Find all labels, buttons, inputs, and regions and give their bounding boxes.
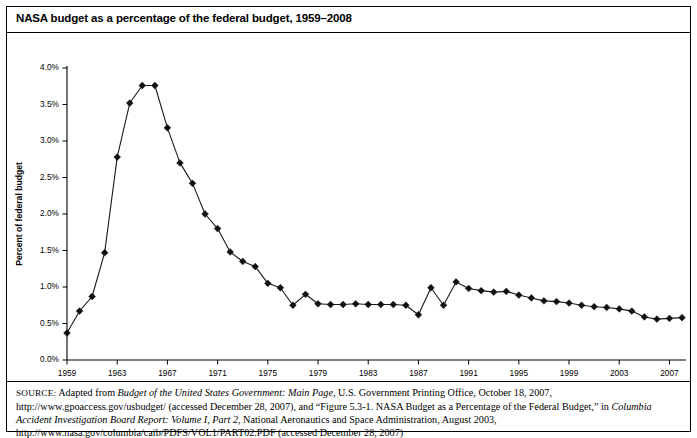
data-point-marker bbox=[503, 288, 510, 295]
data-point-marker bbox=[177, 160, 184, 167]
x-tick-label: 2003 bbox=[610, 368, 629, 378]
data-point-marker bbox=[641, 314, 648, 321]
x-tick-label: 1971 bbox=[208, 368, 227, 378]
data-point-marker bbox=[377, 301, 384, 308]
data-point-marker bbox=[114, 154, 121, 161]
data-point-marker bbox=[616, 306, 623, 313]
x-axis: 1959196319671971197519791983198719911995… bbox=[58, 360, 679, 378]
figure-title: NASA budget as a percentage of the feder… bbox=[16, 12, 352, 24]
series-line-nasa-budget bbox=[67, 86, 682, 333]
x-tick-label: 1995 bbox=[510, 368, 529, 378]
data-point-marker bbox=[327, 301, 334, 308]
data-point-marker bbox=[515, 292, 522, 299]
axis-lines bbox=[67, 66, 686, 360]
source-italic-1: Budget of the United States Government: … bbox=[118, 387, 333, 398]
data-point-marker bbox=[591, 303, 598, 310]
x-tick-label: 2007 bbox=[660, 368, 679, 378]
x-tick-label: 1991 bbox=[459, 368, 478, 378]
x-tick-label: 1983 bbox=[359, 368, 378, 378]
y-axis-title: Percent of federal budget bbox=[14, 162, 24, 266]
data-series bbox=[64, 82, 686, 336]
data-point-marker bbox=[490, 289, 497, 296]
x-tick-label: 1963 bbox=[108, 368, 127, 378]
data-point-marker bbox=[465, 285, 472, 292]
data-point-marker bbox=[578, 302, 585, 309]
data-point-marker bbox=[189, 180, 196, 187]
x-tick-label: 1959 bbox=[58, 368, 77, 378]
x-tick-label: 1975 bbox=[259, 368, 278, 378]
data-point-marker bbox=[478, 287, 485, 294]
data-point-marker bbox=[390, 301, 397, 308]
source-part-1: Adapted from bbox=[56, 387, 117, 398]
y-tick-label: 3.0% bbox=[40, 135, 60, 145]
x-tick-label: 1999 bbox=[560, 368, 579, 378]
data-point-marker bbox=[653, 316, 660, 323]
data-point-marker bbox=[566, 300, 573, 307]
data-point-marker bbox=[139, 82, 146, 89]
data-point-marker bbox=[553, 298, 560, 305]
line-chart: 0.0%0.5%1.0%1.5%2.0%2.5%3.0%3.5%4.0% 195… bbox=[0, 33, 697, 381]
y-tick-label: 0.0% bbox=[40, 354, 60, 364]
source-note: SOURCE: Adapted from Budget of the Unite… bbox=[16, 386, 682, 438]
data-point-marker bbox=[528, 295, 535, 302]
source-divider bbox=[7, 381, 690, 382]
source-label: SOURCE: bbox=[16, 388, 56, 398]
y-tick-label: 0.5% bbox=[40, 318, 60, 328]
y-tick-label: 1.0% bbox=[40, 281, 60, 291]
x-tick-label: 1979 bbox=[309, 368, 328, 378]
y-tick-label: 2.5% bbox=[40, 172, 60, 182]
data-point-marker bbox=[164, 124, 171, 131]
data-point-marker bbox=[453, 278, 460, 285]
y-tick-label: 3.5% bbox=[40, 99, 60, 109]
data-point-marker bbox=[101, 249, 108, 256]
x-tick-label: 1987 bbox=[409, 368, 428, 378]
chart-plot-area: 0.0%0.5%1.0%1.5%2.0%2.5%3.0%3.5%4.0% 195… bbox=[0, 33, 697, 381]
data-point-marker bbox=[679, 314, 686, 321]
data-point-marker bbox=[151, 82, 158, 89]
y-tick-label: 2.0% bbox=[40, 208, 60, 218]
data-point-marker bbox=[365, 301, 372, 308]
y-axis: 0.0%0.5%1.0%1.5%2.0%2.5%3.0%3.5%4.0% bbox=[40, 62, 67, 364]
data-point-marker bbox=[628, 308, 635, 315]
data-point-marker bbox=[541, 297, 548, 304]
y-tick-label: 1.5% bbox=[40, 245, 60, 255]
y-tick-label: 4.0% bbox=[40, 62, 60, 72]
data-point-marker bbox=[666, 315, 673, 322]
data-point-marker bbox=[603, 304, 610, 311]
data-point-marker bbox=[352, 300, 359, 307]
data-point-marker bbox=[340, 301, 347, 308]
y-axis-title-text: Percent of federal budget bbox=[14, 162, 24, 266]
data-point-marker bbox=[64, 330, 71, 337]
x-tick-label: 1967 bbox=[158, 368, 177, 378]
figure-container: NASA budget as a percentage of the feder… bbox=[0, 0, 697, 438]
